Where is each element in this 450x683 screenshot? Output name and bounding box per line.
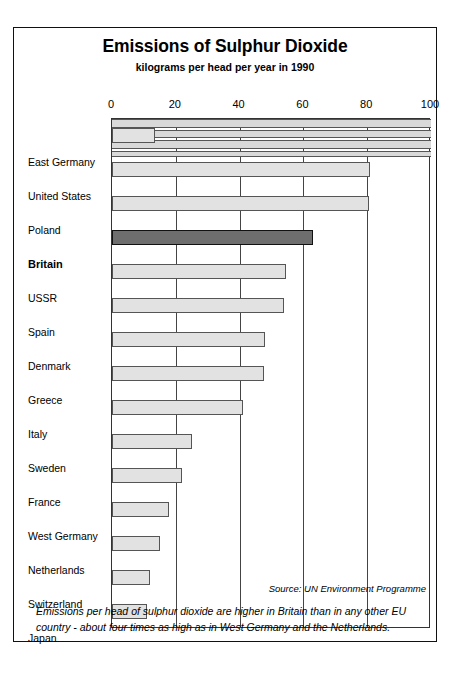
bar-row xyxy=(112,221,429,255)
bar-britain xyxy=(112,230,313,245)
bar-row xyxy=(112,493,429,527)
label-united-states: United States xyxy=(28,190,91,202)
bar-row xyxy=(112,357,429,391)
label-sweden: Sweden xyxy=(28,462,66,474)
label-france: France xyxy=(28,496,61,508)
label-britain: Britain xyxy=(28,258,63,270)
bar-rows xyxy=(112,119,429,627)
label-poland: Poland xyxy=(28,224,61,236)
bar-row xyxy=(112,255,429,289)
label-netherlands: Netherlands xyxy=(28,564,85,576)
x-tick-100: 100 xyxy=(421,98,439,110)
bar-spain xyxy=(112,298,284,313)
bar-poland xyxy=(112,196,369,211)
bar-france xyxy=(112,468,182,483)
label-ussr: USSR xyxy=(28,292,57,304)
bar-united-states xyxy=(112,162,370,177)
bar-denmark xyxy=(112,332,265,347)
bar-row xyxy=(112,153,429,187)
bar-greece xyxy=(112,366,264,381)
bar-row xyxy=(112,391,429,425)
chart-subtitle: kilograms per head per year in 1990 xyxy=(14,61,436,73)
chart-caption: Emissions per head of sulphur dioxide ar… xyxy=(36,603,422,635)
label-west-germany: West Germany xyxy=(28,530,98,542)
bar-row xyxy=(112,119,429,153)
bar-sweden xyxy=(112,434,192,449)
bar-ussr xyxy=(112,264,286,279)
bar-west-germany xyxy=(112,502,169,517)
bar-row xyxy=(112,323,429,357)
x-tick-0: 0 xyxy=(108,98,114,110)
x-axis-tick-labels: 020406080100 xyxy=(111,98,430,114)
x-tick-20: 20 xyxy=(169,98,181,110)
x-tick-80: 80 xyxy=(360,98,372,110)
plot-area xyxy=(111,118,430,628)
x-tick-60: 60 xyxy=(296,98,308,110)
chart-figure: Emissions of Sulphur Dioxide kilograms p… xyxy=(13,27,437,642)
category-labels: East GermanyUnited StatesPolandBritainUS… xyxy=(28,145,120,655)
bar-italy xyxy=(112,400,243,415)
bar-row xyxy=(112,527,429,561)
chart-title: Emissions of Sulphur Dioxide xyxy=(14,36,436,57)
label-italy: Italy xyxy=(28,428,47,440)
label-east-germany: East Germany xyxy=(28,156,95,168)
bar-row xyxy=(112,289,429,323)
bar-row xyxy=(112,425,429,459)
label-denmark: Denmark xyxy=(28,360,71,372)
label-spain: Spain xyxy=(28,326,55,338)
bar-row xyxy=(112,459,429,493)
x-tick-40: 40 xyxy=(232,98,244,110)
source-note: Source: UN Environment Programme xyxy=(269,583,426,594)
bar-row xyxy=(112,187,429,221)
label-greece: Greece xyxy=(28,394,62,406)
bar-east-germany xyxy=(112,128,155,143)
